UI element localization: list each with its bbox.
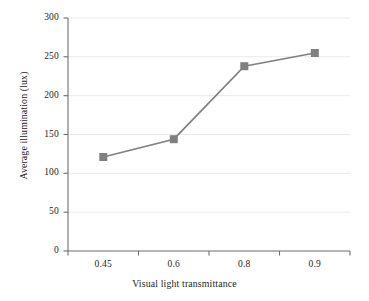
y-axis — [64, 18, 69, 251]
data-point-1 — [170, 135, 178, 143]
data-point-3 — [311, 49, 319, 57]
line-chart-plot — [0, 0, 369, 301]
x-axis — [68, 251, 350, 256]
gridlines — [68, 18, 350, 212]
x-tick-label-1: 0.6 — [154, 259, 194, 269]
y-tick-label-150: 150 — [25, 129, 59, 139]
data-point-0 — [99, 153, 107, 161]
y-tick-label-300: 300 — [25, 12, 59, 22]
y-tick-label-0: 0 — [25, 245, 59, 255]
x-tick-label-3: 0.9 — [295, 259, 335, 269]
data-series-line — [103, 53, 314, 157]
data-markers — [99, 49, 318, 161]
x-tick-label-2: 0.8 — [224, 259, 264, 269]
y-axis-title: Average illumination (lux) — [18, 26, 29, 226]
y-tick-label-100: 100 — [25, 167, 59, 177]
x-axis-title: Visual light transmittance — [0, 278, 369, 289]
data-point-2 — [240, 62, 248, 70]
x-tick-label-0: 0.45 — [83, 259, 123, 269]
y-tick-label-250: 250 — [25, 51, 59, 61]
series-polyline — [103, 53, 314, 157]
y-tick-label-50: 50 — [25, 206, 59, 216]
chart-figure: 300 250 200 150 100 50 0 0.45 0.6 0.8 0.… — [0, 0, 369, 301]
y-tick-label-200: 200 — [25, 90, 59, 100]
